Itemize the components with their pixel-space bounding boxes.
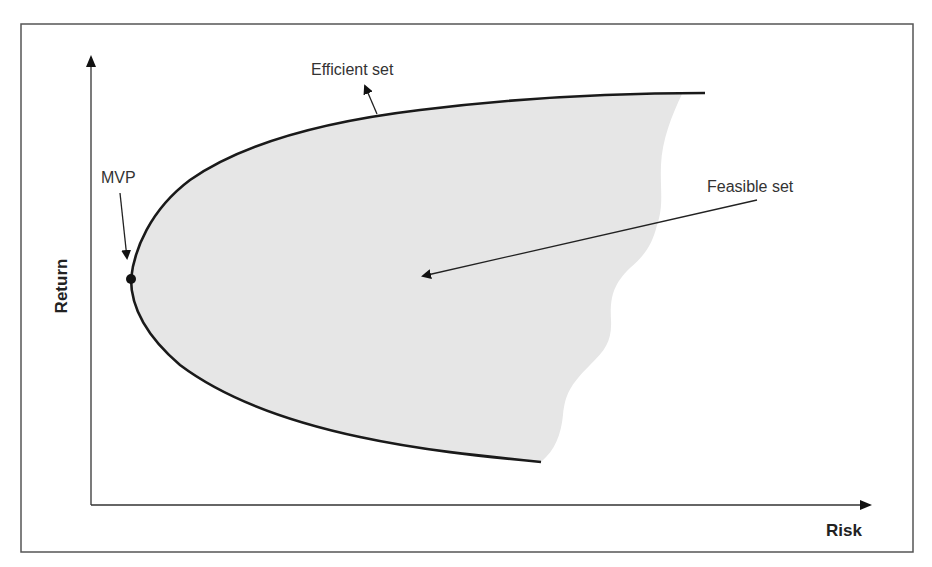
mvp-point <box>126 274 136 284</box>
y-axis-label: Return <box>52 259 71 314</box>
mvp-label: MVP <box>101 169 136 186</box>
efficient-set-arrow <box>365 86 377 114</box>
efficient-frontier-figure: Efficient set Feasible set MVP Risk Retu… <box>0 0 932 567</box>
x-axis-label: Risk <box>826 521 862 540</box>
efficient-set-label: Efficient set <box>311 61 394 78</box>
feasible-set-region <box>131 94 682 462</box>
feasible-set-label: Feasible set <box>707 178 794 195</box>
mvp-arrow <box>120 193 127 258</box>
